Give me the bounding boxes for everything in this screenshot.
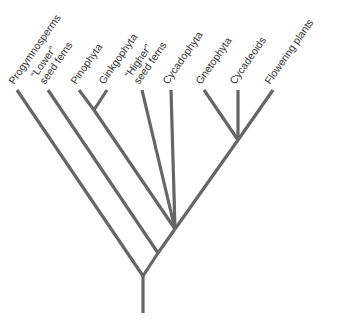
branch-progymnosperms (17, 90, 143, 276)
cladogram: Progymnosperms“Lower”seed fernsPinophyta… (0, 0, 343, 322)
branch-gnetophyta (204, 90, 238, 140)
branch-lower-seed-ferns (48, 90, 158, 253)
branch-n2-to-gnet-cycadeoid (175, 140, 238, 229)
branch-flowering-plants (238, 90, 273, 140)
branches (17, 90, 273, 313)
taxon-labels: Progymnosperms“Lower”seed fernsPinophyta… (6, 12, 316, 86)
taxon-label-line: Flowering plants (262, 17, 316, 87)
branch-ginkgophyta (94, 90, 107, 110)
branch-pinophyta (79, 90, 94, 110)
taxon-label-flowering-plants: Flowering plants (262, 17, 316, 87)
branch-root-to-n1 (143, 253, 158, 276)
branch-n2-to-pinophyta-ginkgophyta (94, 110, 175, 229)
branch-n1-to-n2 (158, 229, 175, 253)
